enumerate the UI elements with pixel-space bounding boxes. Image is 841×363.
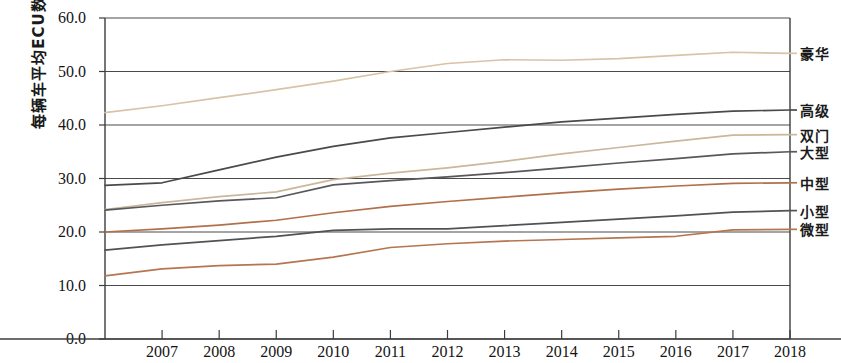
series-line-中型	[105, 183, 790, 232]
series-line-高级	[105, 110, 790, 185]
x-axis-tick-label: 2007	[146, 343, 178, 361]
chart-container: 每辆车平均ECU数量 0.010.020.030.040.050.060.0 2…	[0, 0, 841, 363]
x-axis-tick-label: 2009	[260, 343, 292, 361]
x-axis-tick-label: 2010	[317, 343, 349, 361]
x-axis-tick-label: 2014	[546, 343, 578, 361]
x-axis-tick-label: 2012	[432, 343, 464, 361]
x-axis-tick-label: 2013	[489, 343, 521, 361]
x-axis-tick-label: 2015	[603, 343, 635, 361]
x-axis-tick-label: 2008	[203, 343, 235, 361]
plot-area	[0, 0, 841, 363]
x-axis-tick-label: 2017	[717, 343, 749, 361]
x-axis-tick-label: 2018	[774, 343, 806, 361]
series-line-微型	[105, 229, 790, 276]
x-axis-tick-label: 2011	[375, 343, 406, 361]
x-axis-tick-labels: 2007200820092010201120122013201420152016…	[0, 339, 841, 363]
x-axis-tick-label: 2016	[660, 343, 692, 361]
series-line-豪华	[105, 52, 790, 112]
